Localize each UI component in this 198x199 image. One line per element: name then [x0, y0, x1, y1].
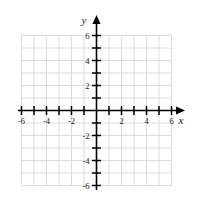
- y-axis-label: y: [81, 14, 87, 26]
- y-tick-label: -6: [82, 181, 89, 191]
- x-axis-label: x: [178, 114, 184, 126]
- x-tick-label: -2: [68, 116, 75, 126]
- y-tick-label: 6: [85, 31, 89, 41]
- y-tick-label: -2: [82, 131, 89, 141]
- x-tick-label: -6: [18, 116, 25, 126]
- x-tick-label: -4: [43, 116, 51, 126]
- y-tick-label: -4: [82, 156, 90, 166]
- x-tick-label: 2: [119, 116, 123, 126]
- y-tick-label: 2: [85, 81, 89, 91]
- x-tick-label: 6: [169, 116, 173, 126]
- figure-background: [0, 0, 198, 199]
- coordinate-grid-figure: -6-4-2246642-2-4-6 x y: [0, 0, 198, 199]
- cartesian-plane: -6-4-2246642-2-4-6 x y: [0, 0, 198, 199]
